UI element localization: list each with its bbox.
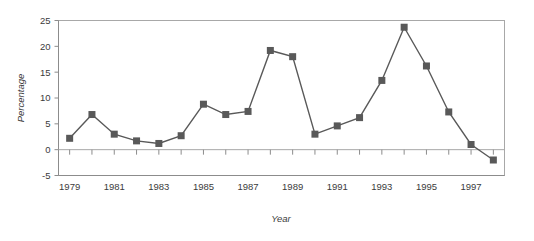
x-tick-label: 1995 xyxy=(416,181,437,192)
data-point-marker xyxy=(245,108,252,115)
y-axis-title: Percentage xyxy=(15,74,26,123)
data-point-marker xyxy=(267,47,274,54)
data-point-marker xyxy=(468,141,475,148)
data-point-marker xyxy=(66,135,73,142)
y-tick-label: 15 xyxy=(40,67,51,78)
x-axis-title: Year xyxy=(271,213,291,224)
y-tick-label: 0 xyxy=(45,144,50,155)
data-point-marker xyxy=(334,122,341,129)
y-tick-label: -5 xyxy=(42,170,50,181)
x-tick-label: 1989 xyxy=(282,181,303,192)
data-point-marker xyxy=(88,111,95,118)
y-tick-label: 25 xyxy=(40,15,51,26)
data-point-marker xyxy=(178,132,185,139)
x-tick-label: 1981 xyxy=(104,181,125,192)
data-point-marker xyxy=(378,77,385,84)
data-point-marker xyxy=(133,137,140,144)
data-point-marker xyxy=(200,101,207,108)
x-tick-label: 1983 xyxy=(148,181,169,192)
y-tick-label: 20 xyxy=(40,41,51,52)
data-point-marker xyxy=(445,108,452,115)
x-tick-label: 1985 xyxy=(193,181,214,192)
line-chart: -50510152025 Percentage 1979198119831985… xyxy=(0,0,534,241)
data-point-marker xyxy=(401,24,408,31)
x-tick-label: 1991 xyxy=(327,181,348,192)
x-tick-label: 1979 xyxy=(59,181,80,192)
data-point-marker xyxy=(155,140,162,147)
data-point-marker xyxy=(111,131,118,138)
x-tick-label: 1993 xyxy=(371,181,392,192)
data-point-marker xyxy=(311,131,318,138)
x-tick-label: 1997 xyxy=(460,181,481,192)
data-point-marker xyxy=(356,114,363,121)
data-point-marker xyxy=(289,53,296,60)
chart-canvas: -50510152025 Percentage 1979198119831985… xyxy=(0,0,534,241)
y-tick-label: 10 xyxy=(40,92,51,103)
y-tick-label: 5 xyxy=(45,118,50,129)
data-point-marker xyxy=(490,157,497,164)
data-point-marker xyxy=(423,62,430,69)
data-point-marker xyxy=(222,111,229,118)
x-tick-label: 1987 xyxy=(237,181,258,192)
